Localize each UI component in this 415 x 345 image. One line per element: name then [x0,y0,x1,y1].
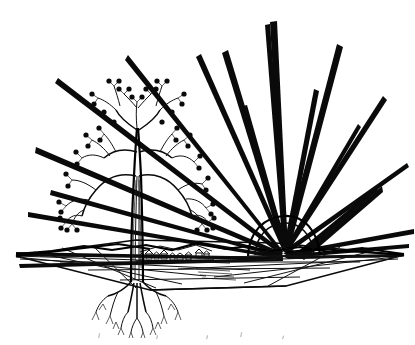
fruit-dot [139,94,144,99]
fruit-dot [89,91,94,96]
fruit-dot [196,165,201,170]
fruit-dot [91,101,96,106]
fruit-dot [143,86,148,91]
fruit-dot [211,215,216,220]
fruit-dot [179,101,184,106]
fruit-dot [73,149,78,154]
fruit-dot [173,137,178,142]
fruit-dot [106,78,111,83]
fruit-dot [74,227,79,232]
fruit-dot [204,227,209,232]
fruit-dot [203,187,208,192]
fruit-dot [126,86,131,91]
fruit-dot [63,171,68,176]
fruit-dot [85,143,90,148]
fruit-dot [153,86,158,91]
fruit-dot [57,215,62,220]
fruit-dot [194,227,199,232]
village-road [136,260,214,261]
fruit-dot [74,161,79,166]
fruit-dot [64,227,69,232]
fruit-dot [97,137,102,142]
fruit-dot [116,86,121,91]
fruit-dot [174,125,179,130]
fruit-dot [154,78,159,83]
fruit-dot [65,183,70,188]
fruit-dot [129,94,134,99]
fruit-dot [164,78,169,83]
fruit-dot [116,78,121,83]
fruit-dot [58,209,63,214]
fruit-dot [187,132,192,137]
fruit-dot [210,201,215,206]
fruit-dot [185,143,190,148]
fruit-dot [210,225,215,230]
fruit-dot [205,175,210,180]
fruit-dot [56,199,61,204]
fruit-dot [101,109,106,114]
fruit-dot [169,109,174,114]
fruit-dot [111,119,116,124]
line-art-drawing [0,0,415,345]
fruit-dot [181,91,186,96]
fruit-dot [58,225,63,230]
fruit-dot [197,153,202,158]
artwork-canvas: Tree of Life with Rising Sun Black and w… [0,0,415,345]
fruit-dot [83,132,88,137]
fruit-dot [96,125,101,130]
paper-background [0,0,415,345]
fruit-dot [159,119,164,124]
